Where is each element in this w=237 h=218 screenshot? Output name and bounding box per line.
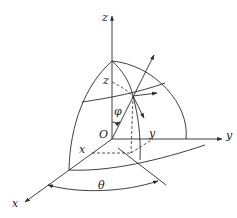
phi-label: φ: [114, 105, 122, 118]
y-coordinate-label: y: [148, 127, 156, 140]
y-axis-label: y: [225, 129, 233, 142]
x-axis: [25, 139, 112, 202]
vertical-projection-dashed: [131, 96, 133, 153]
z-axis-label: z: [101, 11, 108, 24]
z-projection-dashed: [112, 82, 133, 96]
theta-label: θ: [98, 179, 105, 192]
x-axis-label: x: [12, 197, 19, 210]
spherical-coordinates-diagram: z y x O z y x φ θ: [0, 0, 237, 218]
x-coordinate-label: x: [79, 143, 86, 156]
latitude-circle: [82, 83, 165, 102]
phi-angle-arc: [112, 122, 120, 123]
origin-label: O: [99, 128, 108, 141]
unit-vector-phi-hat: [133, 93, 157, 96]
unit-vector-theta-hat: [133, 96, 144, 118]
theta-cut-line: [118, 148, 166, 185]
y-projection-dashed: [131, 139, 153, 153]
z-coordinate-label: z: [102, 74, 109, 87]
